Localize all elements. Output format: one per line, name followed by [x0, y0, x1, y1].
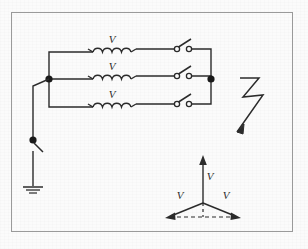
- lightning-bolt-path: [237, 78, 263, 132]
- phase-top-switch-contact-icon[interactable]: [186, 46, 191, 51]
- phase-middle-switch-contact-icon[interactable]: [186, 73, 191, 78]
- lightning-bolt-arrowhead: [237, 124, 244, 134]
- three-phase-circuit-diagram: V V V: [0, 0, 308, 249]
- phasor-lower-left-arrowhead: [165, 213, 176, 221]
- phase-top-left-wire: [49, 52, 93, 79]
- phasor-up-label: V: [207, 170, 215, 182]
- neutral-switch-pivot-dot: [29, 136, 36, 143]
- phase-top: V: [49, 33, 211, 79]
- phasor-lower-right-shaft: [203, 203, 235, 216]
- phase-bottom-coil-lead-right: [131, 104, 136, 107]
- phase-bottom-right-wire: [192, 79, 211, 104]
- phasor-lower-left-shaft: [171, 203, 203, 216]
- phase-middle: V: [49, 60, 211, 79]
- phase-middle-coil: [93, 75, 131, 79]
- phase-middle-coil-lead-right: [131, 76, 136, 79]
- phasor-diagram: V V V: [165, 155, 241, 220]
- phase-bottom-left-wire: [49, 79, 93, 107]
- phase-top-right-wire: [192, 49, 211, 79]
- phase-top-coil-lead-right: [131, 49, 136, 52]
- phasor-lower-left-label: V: [177, 189, 185, 201]
- neutral-ground-branch: [23, 79, 49, 193]
- phase-bottom-coil: [93, 103, 131, 107]
- phasor-up-arrowhead: [199, 155, 207, 165]
- phase-bottom-switch-contact-icon[interactable]: [186, 101, 191, 106]
- lightning-bolt-arrow-icon: [237, 78, 263, 134]
- neutral-switch-blade[interactable]: [34, 143, 43, 152]
- phase-bottom-coil-label: V: [109, 88, 117, 100]
- phasor-lower-right-arrowhead: [231, 213, 242, 221]
- figure-border: [12, 13, 293, 232]
- ground-symbol-icon: [23, 187, 43, 193]
- figure-canvas: V V V: [0, 0, 308, 249]
- phasor-lower-right-label: V: [223, 189, 231, 201]
- phase-bottom: V: [49, 79, 211, 107]
- phase-top-coil-label: V: [109, 33, 117, 45]
- phase-top-coil: [93, 48, 131, 52]
- neutral-wire-from-bus: [33, 79, 49, 138]
- phase-middle-coil-label: V: [109, 60, 117, 72]
- right-bus-junction-dot: [207, 75, 214, 82]
